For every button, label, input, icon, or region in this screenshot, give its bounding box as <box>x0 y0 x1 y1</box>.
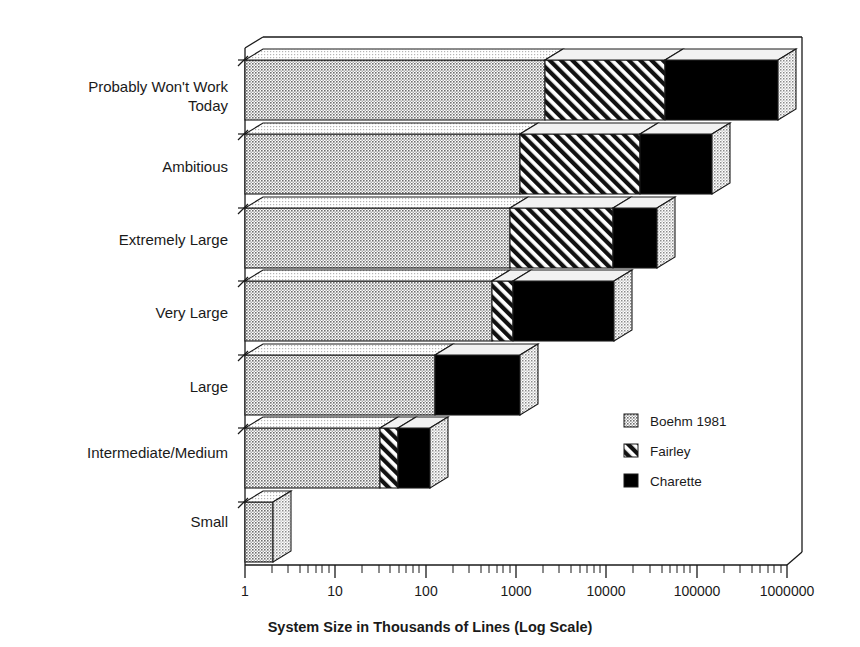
x-tick-label-10: 10 <box>327 583 343 599</box>
x-axis-title: System Size in Thousands of Lines (Log S… <box>268 619 593 635</box>
x-tick-label-100000: 100000 <box>674 583 721 599</box>
x-tick-label-100: 100 <box>414 583 438 599</box>
bar-row <box>245 123 730 194</box>
category-label-ambitious: Ambitious <box>162 158 228 175</box>
x-axis-minor-ticks <box>272 565 781 573</box>
category-label-small: Small <box>190 513 228 530</box>
bar-row <box>245 197 675 268</box>
category-label-very-large: Very Large <box>155 304 228 321</box>
bar-row <box>245 49 796 120</box>
legend-swatch-fairley <box>624 444 638 457</box>
x-tick-label-10000: 10000 <box>587 583 626 599</box>
legend-swatch-charette <box>624 474 638 487</box>
bar-row <box>245 270 632 341</box>
legend-label-boehm-1981: Boehm 1981 <box>650 414 727 429</box>
category-label-large: Large <box>190 378 228 395</box>
bar-chart-svg: Probably Won't Work Today Ambitious Extr… <box>0 0 860 647</box>
bar-row <box>245 491 291 562</box>
x-tick-label-1000000: 1000000 <box>760 583 815 599</box>
x-axis-major-ticks <box>245 565 787 578</box>
bar-row <box>245 417 448 488</box>
legend: Boehm 1981 Fairley Charette <box>624 414 727 489</box>
x-tick-label-1000: 1000 <box>500 583 531 599</box>
x-tick-label-1: 1 <box>241 583 249 599</box>
category-label-intermediate-medium: Intermediate/Medium <box>87 444 228 461</box>
bar-row <box>245 344 538 415</box>
category-label-probably-wont-work: Probably Won't Work <box>88 78 228 95</box>
category-label-extremely-large: Extremely Large <box>119 231 228 248</box>
legend-label-charette: Charette <box>650 474 702 489</box>
category-label-probably-wont-work-line2: Today <box>188 97 229 114</box>
legend-swatch-boehm-1981 <box>624 414 638 427</box>
legend-label-fairley: Fairley <box>650 444 691 459</box>
chart-canvas: Probably Won't Work Today Ambitious Extr… <box>0 0 860 647</box>
